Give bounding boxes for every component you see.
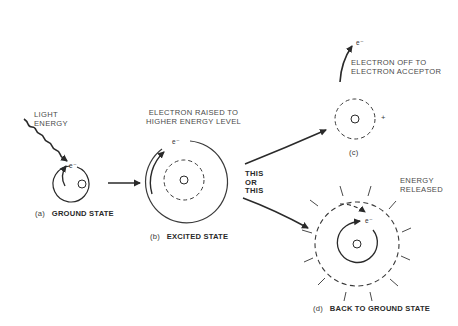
electron-arrow-d (346, 221, 360, 226)
falling-electron-arrow-d (340, 204, 365, 212)
caption-letter-c: (c) (349, 149, 358, 158)
electron-label-b: e⁻ (172, 138, 180, 146)
electron-acceptor-label: ELECTRON OFF TO ELECTRON ACCEPTOR (351, 59, 441, 76)
caption-letter-d: (d) (313, 304, 323, 313)
positive-charge-label: + (381, 114, 386, 123)
electron-arrow-a (62, 166, 66, 186)
light-energy-label: LIGHT ENERGY (34, 111, 68, 128)
electron-raised-line-2: HIGHER ENERGY LEVEL (146, 118, 241, 127)
inner-orbit-dashed-b (164, 160, 204, 200)
energy-released-line-2: RELEASED (400, 186, 443, 195)
electron-raised-label: ELECTRON RAISED TO HIGHER ENERGY LEVEL (146, 109, 241, 126)
nucleus-a (78, 180, 86, 188)
electron-label-c: e⁻ (356, 39, 364, 47)
light-energy-line-2: ENERGY (34, 120, 68, 129)
ground-orbit-d (337, 226, 377, 262)
outer-orbit-b (146, 141, 228, 223)
nucleus-c (351, 115, 359, 123)
this-or-this-label: THIS OR THIS (245, 170, 264, 196)
nucleus-b (180, 176, 188, 184)
diagram-canvas: LIGHT ENERGY e⁻ (a) GROUND STATE ELECTRO… (0, 0, 458, 326)
dashed-excited-orbit-d (315, 202, 399, 286)
energy-rays-icon (302, 186, 411, 301)
arrow-b-to-d (243, 198, 308, 228)
caption-a: (a) GROUND STATE (35, 210, 114, 219)
nucleus-d (353, 240, 361, 248)
caption-letter-b: (b) (150, 232, 160, 241)
caption-title-d: BACK TO GROUND STATE (330, 304, 430, 313)
arrow-b-to-c (245, 130, 326, 164)
caption-title-b: EXCITED STATE (167, 232, 228, 241)
ground-orbit-a (53, 166, 89, 202)
caption-letter-a: (a) (35, 209, 45, 218)
electron-acceptor-line-2: ELECTRON ACCEPTOR (351, 68, 441, 77)
energy-released-label: ENERGY RELEASED (400, 177, 443, 194)
caption-b: (b) EXCITED STATE (150, 233, 228, 242)
caption-d: (d) BACK TO GROUND STATE (313, 305, 430, 314)
dashed-orbit-c (335, 99, 375, 139)
electron-label-d: e⁻ (365, 217, 373, 225)
branch-this-2: THIS (245, 187, 264, 196)
electron-label-a: e⁻ (69, 162, 77, 170)
caption-title-a: GROUND STATE (52, 209, 114, 218)
